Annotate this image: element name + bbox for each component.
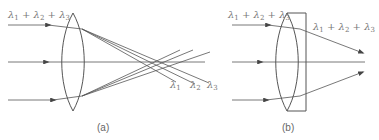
caption-b: (b) bbox=[282, 122, 294, 133]
panel-b: λ1 + λ2 + λ3 λ1 + λ2 + λ3 (b) bbox=[227, 9, 375, 133]
ray-in-top-b-cont bbox=[268, 25, 300, 29]
focus-label-l2: λ2 bbox=[189, 79, 201, 92]
input-label-a: λ1 + λ2 + λ3 bbox=[7, 9, 70, 22]
ray-in-bot-b-cont bbox=[266, 96, 300, 100]
focus-label-l1: λ1 bbox=[169, 79, 181, 92]
ray-in-top-a-cont bbox=[48, 25, 82, 29]
focus-label-l3: λ3 bbox=[206, 79, 218, 92]
ray-out-bot-b bbox=[300, 72, 363, 96]
caption-a: (a) bbox=[97, 122, 109, 133]
output-label-b: λ1 + λ2 + λ3 bbox=[312, 21, 375, 34]
input-label-b: λ1 + λ2 + λ3 bbox=[227, 9, 290, 22]
achromatic-lens-diagram: λ1 + λ2 + λ3 λ1 λ2 λ3 (a) λ1 + λ2 + λ3 λ… bbox=[0, 0, 379, 140]
ray-out-top-b bbox=[300, 29, 363, 53]
panel-a: λ1 + λ2 + λ3 λ1 λ2 λ3 (a) bbox=[7, 9, 218, 133]
ray-top-l3 bbox=[82, 29, 209, 83]
